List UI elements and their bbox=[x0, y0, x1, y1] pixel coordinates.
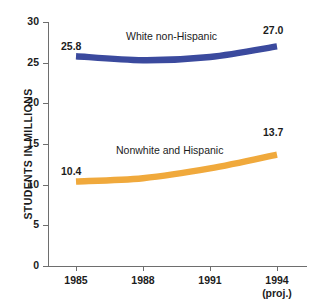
y-tick-0: 0 bbox=[43, 266, 48, 267]
x-tick-1994 bbox=[277, 266, 278, 271]
y-tick-label-10: 10 bbox=[27, 178, 39, 190]
data-label-nonwhite-1994: 13.7 bbox=[263, 126, 283, 138]
series-line-nonwhite-and-hispanic bbox=[76, 155, 277, 182]
data-label-white-1985: 25.8 bbox=[61, 40, 81, 52]
y-tick-label-25: 25 bbox=[27, 56, 39, 68]
y-tick-label-0: 0 bbox=[33, 259, 39, 271]
x-tick-label-1988: 1988 bbox=[131, 274, 154, 286]
series-label-nonwhite-and-hispanic: Nonwhite and Hispanic bbox=[116, 144, 223, 156]
series-line-white-non-hispanic bbox=[76, 46, 277, 60]
plot-area: 30 25 20 15 10 5 0 1985 1988 1991 1994 (… bbox=[48, 22, 307, 266]
data-label-white-1994: 27.0 bbox=[263, 24, 283, 36]
data-label-nonwhite-1985: 10.4 bbox=[61, 165, 81, 177]
y-tick-label-15: 15 bbox=[27, 137, 39, 149]
y-tick-label-30: 30 bbox=[27, 15, 39, 27]
y-tick-label-5: 5 bbox=[33, 218, 39, 230]
x-tick-label-1994: 1994 (proj.) bbox=[262, 274, 292, 299]
x-tick-label-1985: 1985 bbox=[64, 274, 87, 286]
chart-figure: STUDENTS IN MILLIONS 30 25 20 15 10 5 0 … bbox=[0, 0, 317, 307]
x-tick-1985 bbox=[76, 266, 77, 271]
y-axis-title: STUDENTS IN MILLIONS bbox=[22, 64, 34, 244]
x-tick-1991 bbox=[210, 266, 211, 271]
x-tick-label-1994-year: 1994 bbox=[265, 274, 288, 286]
x-tick-label-1991: 1991 bbox=[198, 274, 221, 286]
x-axis-line bbox=[48, 266, 307, 267]
series-label-white-non-hispanic: White non-Hispanic bbox=[126, 30, 217, 42]
y-tick-label-20: 20 bbox=[27, 96, 39, 108]
x-tick-1988 bbox=[143, 266, 144, 271]
x-tick-label-1994-note: (proj.) bbox=[262, 287, 292, 299]
